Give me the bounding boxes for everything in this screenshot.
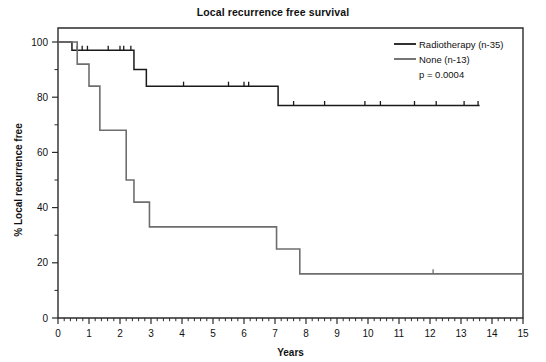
x-tick-label: 13 — [455, 328, 467, 339]
survival-plot: 0204060801000123456789101112131415Years%… — [0, 0, 546, 362]
x-tick-label: 8 — [303, 328, 309, 339]
survival-curve — [58, 42, 480, 105]
x-tick-label: 12 — [424, 328, 436, 339]
y-tick-label: 80 — [37, 92, 49, 103]
p-value-annotation: p = 0.0004 — [419, 69, 464, 80]
x-axis-title: Years — [277, 347, 304, 358]
x-tick-label: 1 — [86, 328, 92, 339]
legend: Radiotherapy (n-35)None (n-13)p = 0.0004 — [394, 39, 504, 80]
x-tick-label: 9 — [334, 328, 340, 339]
x-tick-label: 4 — [179, 328, 185, 339]
x-tick-label: 2 — [117, 328, 123, 339]
x-tick-label: 10 — [362, 328, 374, 339]
x-tick-label: 7 — [272, 328, 278, 339]
x-tick-label: 11 — [394, 328, 405, 339]
y-tick-label: 40 — [37, 202, 49, 213]
y-tick-label: 20 — [37, 257, 49, 268]
x-tick-label: 5 — [210, 328, 216, 339]
x-tick-label: 14 — [486, 328, 498, 339]
figure-container: Local recurrence free survival 020406080… — [0, 0, 546, 362]
x-tick-label: 0 — [55, 328, 61, 339]
legend-label: None (n-13) — [419, 54, 470, 65]
y-tick-label: 100 — [31, 37, 48, 48]
x-tick-label: 6 — [241, 328, 247, 339]
x-tick-label: 3 — [148, 328, 154, 339]
x-tick-label: 15 — [517, 328, 529, 339]
y-tick-label: 60 — [37, 147, 49, 158]
legend-label: Radiotherapy (n-35) — [419, 39, 504, 50]
y-tick-label: 0 — [42, 313, 48, 324]
series-radiotherapy — [58, 42, 480, 105]
y-axis-title: % Local recurrence free — [13, 123, 24, 237]
